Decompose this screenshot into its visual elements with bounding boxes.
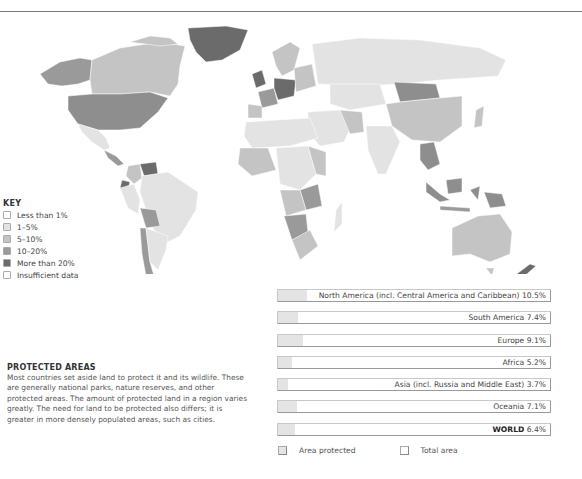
bar-oceania: Oceania 7.1% [277,400,551,413]
eastern-europe [294,64,316,92]
key-row-10-20: 10–20% [3,245,78,257]
info-body: Most countries set aside land to protect… [7,373,247,425]
north-africa [244,118,318,148]
bar-fill-protected [278,379,288,390]
bar-label: Africa 5.2% [500,357,546,368]
indonesia-2 [446,178,462,194]
bar-label: South America 7.4% [465,312,546,323]
key-row-more-than-20: More than 20% [3,257,78,269]
legend-label: Area protected [299,446,356,455]
central-europe [274,78,296,100]
japan [474,106,484,128]
key-row-less-than-1: Less than 1% [3,209,78,221]
bar-fill-protected [278,290,307,301]
bar-label: North America (incl. Central America and… [316,290,546,301]
bar-fill-protected [278,357,292,368]
legend-swatch-protected [278,446,287,455]
key-label: More than 20% [17,259,75,268]
bar-asia: Asia (incl. Russia and Middle East) 3.7% [277,378,551,391]
bar-fill-protected [278,335,303,346]
key-label: 5–10% [17,235,43,244]
indonesia-3 [470,186,480,200]
alaska [40,58,92,86]
key-title: KEY [3,199,78,208]
key-swatch-10-20 [3,247,11,255]
key-row-1-5: 1–5% [3,221,78,233]
madagascar [334,202,342,232]
canada [90,42,185,96]
se-asia [420,142,440,170]
bar-label: Europe 9.1% [495,335,546,346]
china [386,96,462,142]
bar-south-america: South America 7.4% [277,311,551,324]
bar-legend: Area protected Total area [278,446,502,455]
key-label: 10–20% [17,247,47,256]
kazakhstan [330,84,386,110]
iberia [248,104,262,118]
new-zealand [514,264,536,274]
legend-total-area: Total area [400,446,458,455]
key-label: 1–5% [17,223,38,232]
bar-fill-protected [278,424,295,435]
key-swatch-less-than-1 [3,211,11,219]
legend-area-protected: Area protected [278,446,356,455]
top-rule [0,11,582,12]
key-swatch-1-5 [3,223,11,231]
info-title: PROTECTED AREAS [7,363,247,373]
uk [252,70,266,88]
world-map [0,14,582,274]
usa [68,92,168,130]
russia [312,38,506,86]
legend-label: Total area [421,446,458,455]
indonesia-1 [426,182,450,202]
india [366,126,400,174]
bar-north-america: North America (incl. Central America and… [277,289,551,302]
key-label: Insufficient data [17,271,78,280]
bar-chart: North America (incl. Central America and… [277,289,551,445]
bar-world: WORLD 6.4% [277,423,551,436]
bar-africa: Africa 5.2% [277,356,551,369]
protected-areas-info: PROTECTED AREAS Most countries set aside… [7,363,247,425]
colombia [126,164,142,184]
papua [484,192,506,208]
key-swatch-insufficient-data [3,271,11,279]
greenland [188,26,248,62]
key-swatch-more-than-20 [3,259,11,267]
bar-label: Asia (incl. Russia and Middle East) 3.7% [392,379,546,390]
bar-fill-protected [278,401,297,412]
west-africa [238,148,276,176]
bar-label: Oceania 7.1% [490,401,546,412]
legend-swatch-total [400,446,409,455]
bar-label: WORLD 6.4% [489,424,546,435]
bar-fill-protected [278,312,298,323]
key-label: Less than 1% [17,211,68,220]
key-swatch-5-10 [3,235,11,243]
peru [120,184,140,214]
bar-europe: Europe 9.1% [277,334,551,347]
australia [452,214,512,262]
indonesia-chain [440,206,470,212]
map-key: KEY Less than 1% 1–5% 5–10% 10–20% More … [3,199,78,281]
key-row-insufficient-data: Insufficient data [3,269,78,281]
key-row-5-10: 5–10% [3,233,78,245]
tasmania [486,268,494,274]
